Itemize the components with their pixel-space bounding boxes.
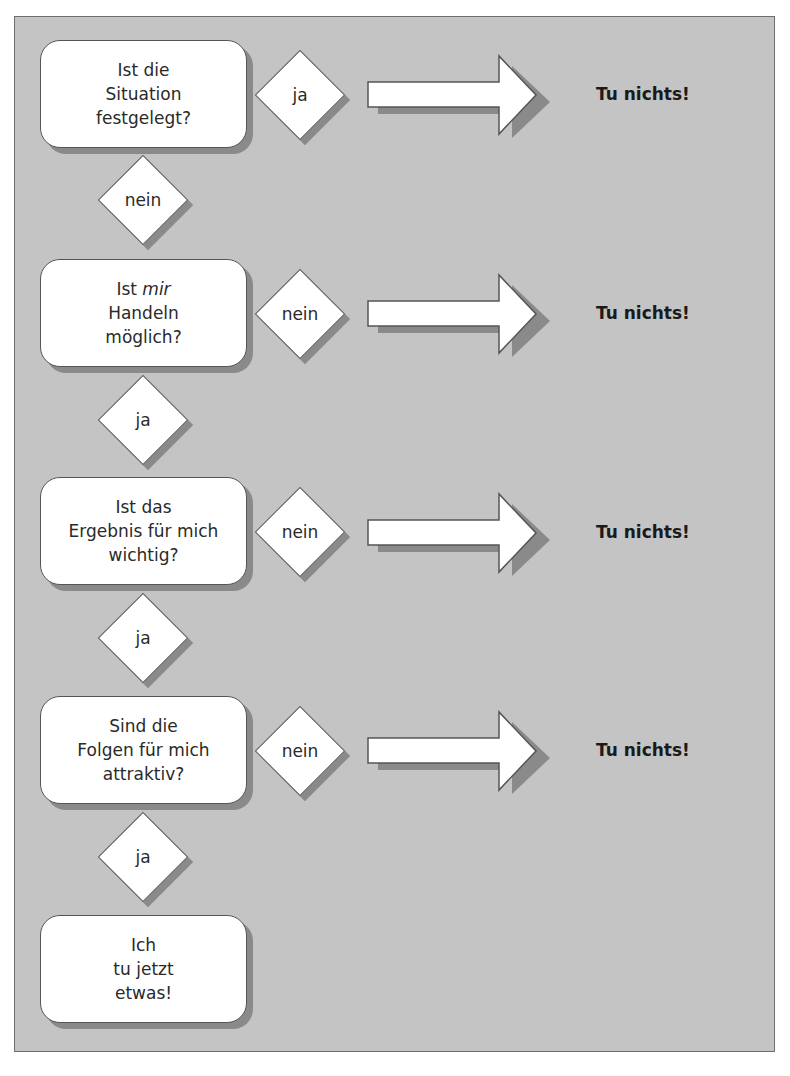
question-box-consequences-attractive: Sind die Folgen für mich attraktiv? [40, 696, 247, 804]
result-label: Tu nichts! [596, 303, 690, 323]
question-text-line: Ist die [118, 58, 170, 82]
result-label: Tu nichts! [596, 84, 690, 104]
final-text-line: etwas! [115, 981, 172, 1005]
question-text-line: Sind die [109, 714, 177, 738]
arrow-right-icon [366, 52, 551, 142]
question-text-line: attraktiv? [103, 762, 184, 786]
question-text-line: festgelegt? [96, 106, 191, 130]
decision-label: ja [248, 63, 352, 127]
question-text-line: Ist das [115, 495, 171, 519]
decision-label: nein [248, 282, 352, 346]
final-action-box: Ich tu jetzt etwas! [40, 915, 247, 1023]
result-label: Tu nichts! [596, 740, 690, 760]
decision-diamond-down: ja [111, 825, 175, 889]
decision-label: ja [91, 388, 195, 452]
question-text-line: Situation [106, 82, 182, 106]
arrow-right-icon [366, 271, 551, 361]
question-text-line: möglich? [105, 325, 181, 349]
question-text-line: Ist mir [116, 277, 170, 301]
arrow-right-icon [366, 708, 551, 798]
decision-label: ja [91, 606, 195, 670]
question-text-line: Handeln [108, 301, 179, 325]
decision-diamond-side: nein [268, 282, 332, 346]
question-text-line: Folgen für mich [77, 738, 209, 762]
final-text-line: Ich [131, 933, 156, 957]
decision-diamond-down: ja [111, 388, 175, 452]
decision-label: nein [248, 719, 352, 783]
question-text-line: wichtig? [109, 543, 179, 567]
arrow-right-icon [366, 490, 551, 580]
final-text-line: tu jetzt [113, 957, 173, 981]
decision-label: nein [248, 500, 352, 564]
decision-label: ja [91, 825, 195, 889]
question-box-situation-fixed: Ist die Situation festgelegt? [40, 40, 247, 148]
question-box-result-important: Ist das Ergebnis für mich wichtig? [40, 477, 247, 585]
decision-diamond-down: ja [111, 606, 175, 670]
decision-diamond-down: nein [111, 168, 175, 232]
decision-diamond-side: nein [268, 500, 332, 564]
decision-diamond-side: ja [268, 63, 332, 127]
decision-label: nein [91, 168, 195, 232]
result-label: Tu nichts! [596, 522, 690, 542]
decision-diamond-side: nein [268, 719, 332, 783]
question-text-line: Ergebnis für mich [69, 519, 219, 543]
question-box-action-possible: Ist mir Handeln möglich? [40, 259, 247, 367]
